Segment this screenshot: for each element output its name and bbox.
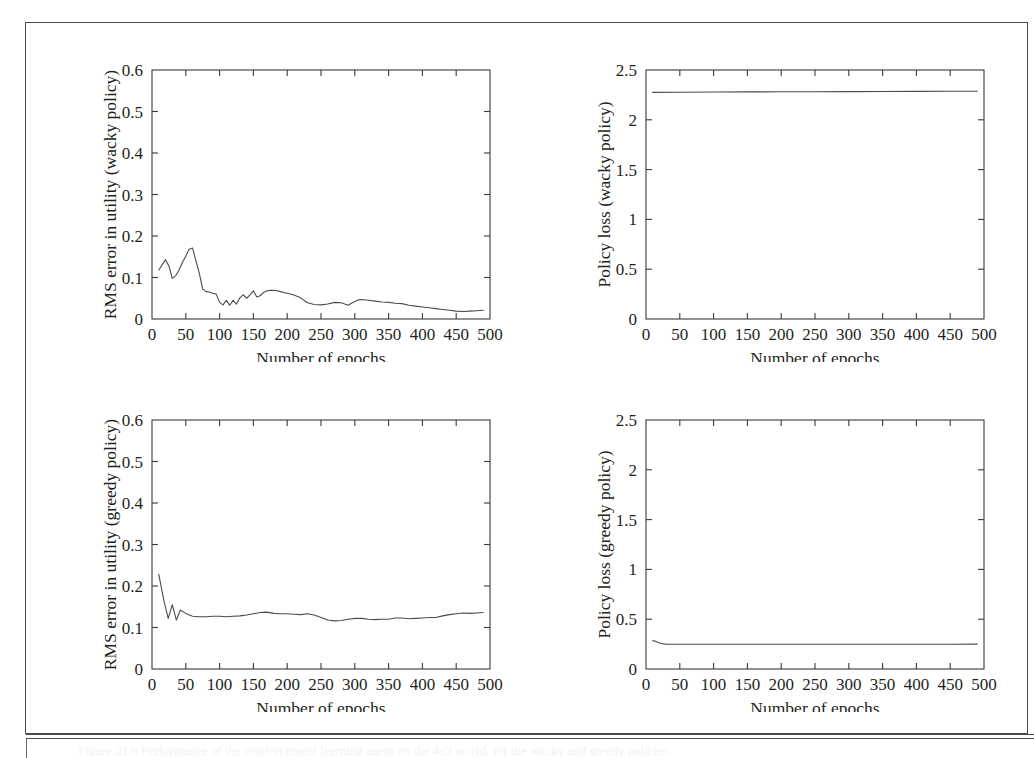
y-tick-label: 0.5 [122,453,143,472]
x-tick-label: 250 [308,325,334,344]
x-tick-label: 400 [904,675,930,694]
x-tick-label: 300 [836,325,862,344]
footer-frame-stub [26,739,27,758]
x-tick-label: 0 [148,325,157,344]
plot-panel-top-right: 05010015020025030035040045050000.511.522… [594,52,1014,362]
x-tick-label: 50 [177,325,194,344]
x-tick-label: 450 [937,325,963,344]
plot-panel-top-left: 05010015020025030035040045050000.10.20.3… [100,52,520,362]
x-tick-label: 100 [207,325,233,344]
data-series-line [653,641,977,645]
x-tick-label: 100 [701,675,727,694]
x-axis-title: Number of epochs [750,698,879,712]
x-tick-label: 250 [802,325,828,344]
x-tick-label: 450 [937,675,963,694]
x-tick-label: 0 [148,675,157,694]
y-tick-label: 0 [135,660,144,679]
x-tick-label: 150 [735,325,761,344]
x-tick-label: 500 [477,325,503,344]
x-tick-label: 200 [274,675,300,694]
x-tick-label: 450 [443,325,469,344]
data-series-line [159,248,483,312]
x-tick-label: 100 [701,325,727,344]
y-tick-label: 0 [135,310,144,329]
y-tick-label: 0.1 [122,269,143,288]
x-tick-label: 0 [642,675,651,694]
y-tick-label: 0.6 [122,411,143,430]
plot-frame [152,420,490,669]
y-tick-label: 0 [629,660,638,679]
x-axis-title: Number of epochs [750,348,879,362]
x-tick-label: 200 [274,325,300,344]
x-tick-label: 350 [870,325,896,344]
x-tick-label: 350 [376,675,402,694]
data-series-line [653,91,977,92]
y-tick-label: 2.5 [616,411,637,430]
x-tick-label: 500 [971,325,997,344]
x-tick-label: 50 [671,325,688,344]
y-tick-label: 1 [629,560,638,579]
chart-top-right: 05010015020025030035040045050000.511.522… [594,52,1014,362]
figure-caption-sliver: Figure 21.6 Performance of the reinforce… [78,746,978,756]
x-tick-label: 300 [836,675,862,694]
y-tick-label: 1 [629,210,638,229]
x-tick-label: 450 [443,675,469,694]
plot-panel-bottom-left: 05010015020025030035040045050000.10.20.3… [100,402,520,712]
y-tick-label: 0.6 [122,61,143,80]
plot-frame [646,70,984,319]
x-tick-label: 250 [308,675,334,694]
chart-bottom-right: 05010015020025030035040045050000.511.522… [594,402,1014,712]
x-tick-label: 50 [671,675,688,694]
x-tick-label: 400 [904,325,930,344]
x-tick-label: 0 [642,325,651,344]
y-tick-label: 0.4 [122,494,144,513]
y-tick-label: 0.3 [122,536,143,555]
y-tick-label: 0 [629,310,638,329]
y-axis-title: Policy loss (greedy policy) [594,450,614,638]
y-axis-title: Policy loss (wacky policy) [594,101,614,287]
x-tick-label: 250 [802,675,828,694]
y-tick-label: 2 [629,461,638,480]
chart-top-left: 05010015020025030035040045050000.10.20.3… [100,52,520,362]
plot-panel-bottom-right: 05010015020025030035040045050000.511.522… [594,402,1014,712]
y-tick-label: 1.5 [616,511,637,530]
x-tick-label: 300 [342,325,368,344]
y-tick-label: 0.5 [616,260,637,279]
y-axis-title: RMS error in utility (wacky policy) [100,70,120,320]
y-tick-label: 0.5 [616,610,637,629]
y-tick-label: 0.2 [122,577,143,596]
x-tick-label: 350 [376,325,402,344]
x-tick-label: 200 [768,675,794,694]
x-tick-label: 150 [241,675,267,694]
y-tick-label: 1.5 [616,161,637,180]
y-axis-title: RMS error in utility (greedy policy) [100,419,120,670]
footer-rule-lower [26,738,1034,739]
x-tick-label: 200 [768,325,794,344]
y-tick-label: 2 [629,111,638,130]
x-axis-title: Number of epochs [256,348,385,362]
y-tick-label: 0.5 [122,103,143,122]
x-tick-label: 400 [410,675,436,694]
y-tick-label: 0.4 [122,144,144,163]
data-series-line [159,574,483,620]
y-tick-label: 2.5 [616,61,637,80]
x-tick-label: 300 [342,675,368,694]
y-tick-label: 0.3 [122,186,143,205]
x-tick-label: 350 [870,675,896,694]
x-tick-label: 150 [735,675,761,694]
x-tick-label: 150 [241,325,267,344]
x-tick-label: 100 [207,675,233,694]
chart-bottom-left: 05010015020025030035040045050000.10.20.3… [100,402,520,712]
x-tick-label: 500 [971,675,997,694]
plot-frame [646,420,984,669]
x-tick-label: 400 [410,325,436,344]
footer-rule-upper [26,734,1034,735]
x-tick-label: 50 [177,675,194,694]
y-tick-label: 0.1 [122,619,143,638]
x-tick-label: 500 [477,675,503,694]
plot-frame [152,70,490,319]
y-tick-label: 0.2 [122,227,143,246]
x-axis-title: Number of epochs [256,698,385,712]
